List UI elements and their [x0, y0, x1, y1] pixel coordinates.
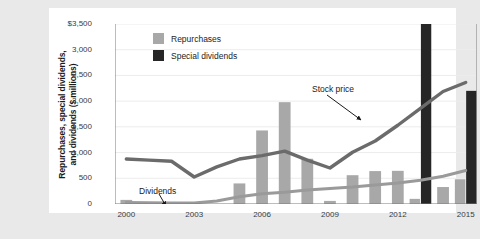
y-tick-left-500: 500 [79, 174, 92, 182]
chart-plot-card: Repurchases, special dividends, and divi… [49, 8, 456, 213]
annotation-stock-price: Stock price [312, 84, 354, 94]
x-tick-2006: 2006 [253, 210, 271, 219]
legend-item-repurchases: Repurchases [153, 30, 237, 47]
x-tick-2003: 2003 [185, 210, 203, 219]
y-tick-left-3500: $3,500 [68, 20, 92, 28]
x-tick-2009: 2009 [321, 210, 339, 219]
y-tick-left-2500: 2,500 [72, 71, 92, 79]
y-axis-left-ticks: $3,5003,0002,5002,0001,5001,0005000 [49, 8, 92, 213]
legend-label-special-dividends: Special dividends [171, 51, 237, 61]
x-tick-2015: 2015 [457, 210, 475, 219]
y-tick-left-3000: 3,000 [72, 46, 92, 54]
legend-label-repurchases: Repurchases [171, 34, 221, 44]
y-tick-left-1000: 1,000 [72, 149, 92, 157]
legend-item-special-dividends: Special dividends [153, 47, 237, 64]
y-tick-left-0: 0 [88, 200, 92, 208]
x-tick-2000: 2000 [117, 210, 135, 219]
legend-swatch-repurchases [153, 33, 164, 44]
x-tick-2012: 2012 [389, 210, 407, 219]
legend-swatch-special-dividends [153, 50, 164, 61]
annotation-dividends: Dividends [139, 186, 176, 196]
chart-legend: Repurchases Special dividends [153, 30, 237, 64]
y-tick-left-1500: 1,500 [72, 123, 92, 131]
chart-figure: Repurchases, special dividends, and divi… [0, 0, 480, 239]
y-tick-left-2000: 2,000 [72, 97, 92, 105]
